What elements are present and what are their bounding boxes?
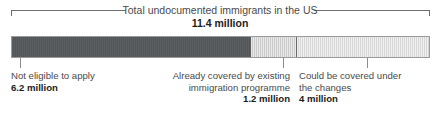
label-not-eligible-text: Not eligible to apply: [11, 70, 161, 82]
total-value: 11.4 million: [0, 17, 440, 30]
label-not-eligible-value: 6.2 million: [11, 82, 161, 94]
label-already-covered-line1: Already covered by existing: [140, 70, 290, 82]
leader-tick-could-be-covered: [367, 58, 368, 68]
leader-tick-not-eligible: [20, 58, 21, 68]
total-title: Total undocumented immigrants in the US: [0, 3, 440, 17]
bar-segment-not-eligible[interactable]: [12, 37, 251, 57]
bar-segment-could-be-covered[interactable]: [297, 37, 429, 57]
label-not-eligible: Not eligible to apply 6.2 million: [11, 70, 161, 93]
label-already-covered: Already covered by existing immigration …: [140, 70, 290, 105]
bar-segment-already-covered[interactable]: [251, 37, 297, 57]
label-could-be-covered-value: 4 million: [299, 93, 439, 105]
leader-tick-already-covered: [283, 58, 284, 68]
stacked-bar-chart: Total undocumented immigrants in the US …: [0, 0, 440, 113]
label-already-covered-value: 1.2 million: [140, 93, 290, 105]
label-could-be-covered-line2: the changes: [299, 82, 439, 94]
label-could-be-covered: Could be covered under the changes 4 mil…: [299, 70, 439, 105]
label-could-be-covered-line1: Could be covered under: [299, 70, 439, 82]
label-already-covered-line2: immigration programme: [140, 82, 290, 94]
bar-track: [11, 36, 430, 58]
